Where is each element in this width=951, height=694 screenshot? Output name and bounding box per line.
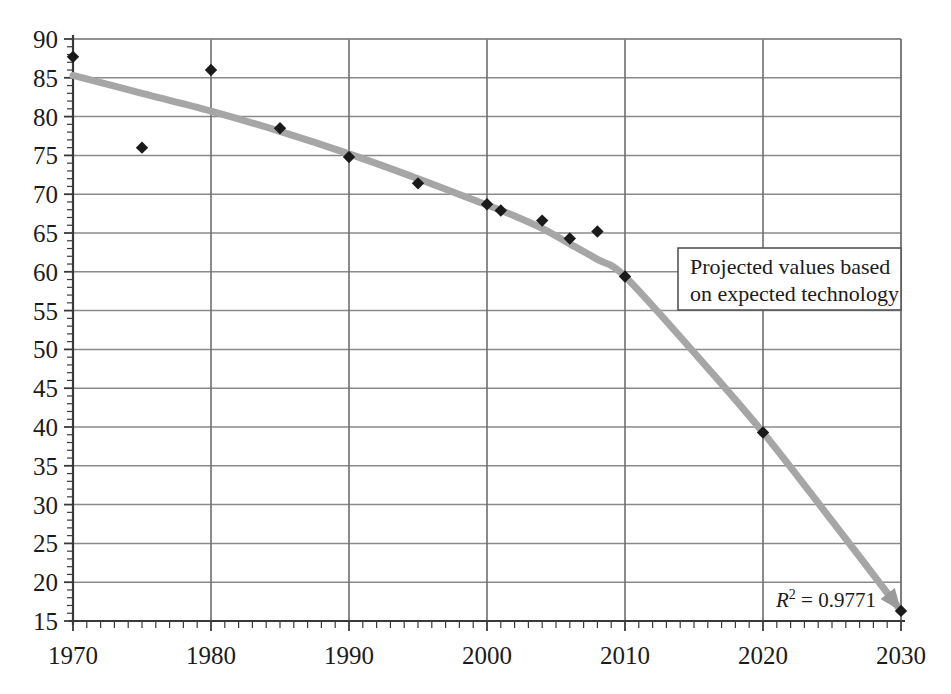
y-tick-label-70: 70 (33, 181, 58, 208)
x-tick-label-2020: 2020 (738, 642, 788, 669)
y-tick-label-80: 80 (33, 104, 58, 131)
y-tick-label-35: 35 (33, 453, 58, 480)
y-tick-label-55: 55 (33, 298, 58, 325)
y-tick-label-90: 90 (33, 26, 58, 53)
y-tick-label-75: 75 (33, 142, 58, 169)
r-squared-equals: = (796, 588, 818, 612)
x-tick-label-1970: 1970 (48, 642, 98, 669)
y-tick-label-25: 25 (33, 530, 58, 557)
annotation-line-2: on expected technology (690, 281, 899, 306)
x-tick-label-2030: 2030 (876, 642, 926, 669)
y-tick-label-20: 20 (33, 569, 58, 596)
y-tick-label-15: 15 (33, 608, 58, 635)
y-tick-label-40: 40 (33, 414, 58, 441)
annotation-line-1: Projected values based (690, 254, 890, 279)
y-tick-label-45: 45 (33, 375, 58, 402)
projection-note-annotation: Projected values based on expected techn… (678, 248, 901, 310)
x-tick-label-1980: 1980 (186, 642, 236, 669)
r-squared-value: 0.9771 (818, 588, 876, 612)
scatter-chart: 90858075706560555045403530252015 1970198… (0, 0, 951, 694)
y-tick-label-50: 50 (33, 336, 58, 363)
x-tick-label-1990: 1990 (324, 642, 374, 669)
y-tick-label-30: 30 (33, 492, 58, 519)
x-tick-label-2000: 2000 (462, 642, 512, 669)
chart-container: 90858075706560555045403530252015 1970198… (0, 0, 951, 694)
r-squared-exponent: 2 (789, 587, 796, 602)
x-tick-label-2010: 2010 (600, 642, 650, 669)
y-tick-label-65: 65 (33, 220, 58, 247)
y-tick-label-60: 60 (33, 259, 58, 286)
r-squared-symbol: R (775, 588, 789, 612)
y-tick-label-85: 85 (33, 65, 58, 92)
